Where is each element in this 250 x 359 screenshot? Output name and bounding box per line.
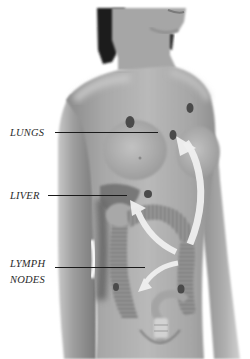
- lymph-leader-line: [55, 267, 145, 268]
- anatomy-illustration: LUNGS LIVER LYMPH NODES: [0, 0, 250, 359]
- label-lymph: LYMPH: [10, 258, 45, 269]
- torso-figure: [0, 0, 250, 359]
- descending-colon: [177, 244, 196, 316]
- label-lungs: LUNGS: [10, 127, 44, 138]
- liver-leader-line: [48, 195, 127, 196]
- lung-spot-right-lower: [170, 130, 177, 140]
- label-liver: LIVER: [10, 190, 40, 201]
- lung-spot-right-upper: [187, 103, 194, 113]
- label-nodes: NODES: [10, 274, 45, 285]
- liver-spot: [144, 190, 152, 198]
- rectum: [154, 318, 168, 338]
- lungs-leader-line: [55, 132, 158, 133]
- left-breast: [103, 120, 167, 180]
- lymph-spot: [113, 283, 119, 291]
- lung-spot-left: [126, 116, 135, 128]
- neck: [112, 8, 186, 72]
- colon-spot: [178, 285, 185, 294]
